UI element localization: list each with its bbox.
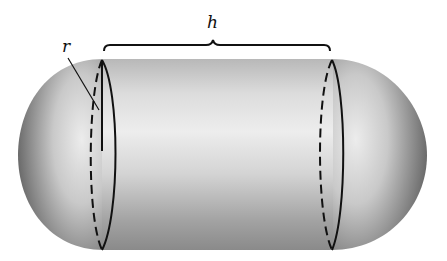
height-brace bbox=[104, 40, 330, 51]
height-label: h bbox=[207, 14, 218, 31]
right-hemisphere bbox=[332, 59, 427, 250]
left-hemisphere bbox=[18, 59, 103, 250]
cylinder-body bbox=[102, 59, 333, 250]
radius-label: r bbox=[62, 38, 70, 55]
